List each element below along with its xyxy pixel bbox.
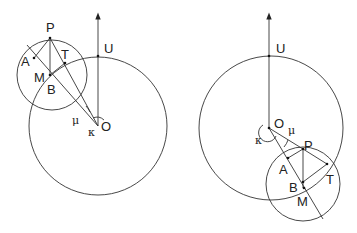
right-line-PA [288, 149, 303, 158]
left-label-M: M [34, 70, 45, 85]
right-figure: U O μ κ P A T B M [199, 16, 343, 221]
left-label-B: B [47, 82, 56, 97]
left-label-U: U [104, 41, 113, 56]
right-label-mu: μ [288, 124, 295, 137]
right-label-P: P [304, 138, 313, 153]
left-line-MT [50, 63, 65, 75]
left-line-PO [50, 38, 98, 126]
right-line-BT [303, 164, 327, 182]
right-label-A: A [279, 162, 288, 177]
right-label-kappa: κ [255, 134, 262, 147]
left-figure: P A T M B U O μ κ [17, 16, 167, 195]
left-label-O: O [101, 119, 111, 134]
left-label-kappa: κ [88, 126, 95, 139]
right-large-circle [199, 56, 343, 200]
right-mu-arc [284, 140, 288, 147]
right-label-O: O [274, 116, 284, 131]
right-label-U: U [276, 41, 285, 56]
left-label-T: T [61, 47, 69, 62]
left-label-A: A [21, 54, 30, 69]
left-label-mu: μ [72, 114, 79, 127]
left-label-P: P [46, 20, 55, 35]
right-label-B: B [289, 180, 298, 195]
diagram-canvas: P A T M B U O μ κ U O μ κ P A T B M [0, 0, 357, 233]
right-label-T: T [326, 172, 334, 187]
right-label-M: M [297, 194, 308, 209]
